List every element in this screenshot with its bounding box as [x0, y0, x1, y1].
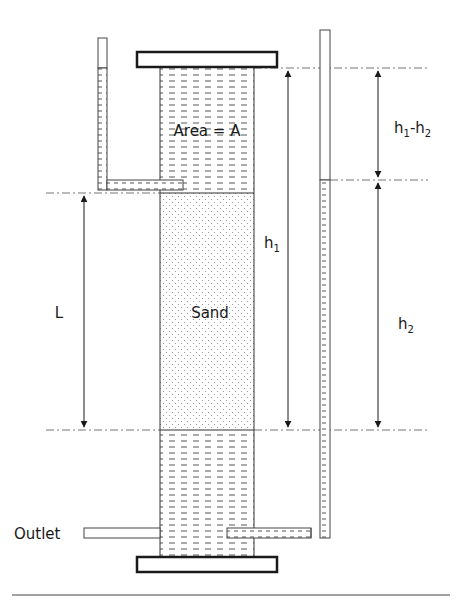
h1-label: h1 [264, 234, 280, 254]
h1-minus-h2-label: h1-h2 [394, 119, 431, 139]
h2-label: h2 [398, 315, 414, 335]
diff-minus-h: -h [410, 119, 425, 137]
top-cap [137, 52, 277, 67]
diff-h1-base: h [394, 119, 404, 137]
area-label: Area = A [174, 122, 242, 140]
h1-subscript: 1 [274, 243, 280, 254]
L-label: L [55, 304, 64, 322]
outlet-pipe [84, 528, 160, 538]
h2-base: h [398, 315, 408, 333]
h2-subscript: 2 [408, 324, 414, 335]
sand-label: Sand [191, 304, 229, 322]
bottom-cap [137, 557, 277, 572]
h1-base: h [264, 234, 274, 252]
outlet-label: Outlet [14, 525, 61, 543]
permeameter-diagram: Area = A Sand L h1 h2 h1-h2 Outlet [0, 0, 470, 608]
diff-h2-subscript: 2 [425, 128, 431, 139]
